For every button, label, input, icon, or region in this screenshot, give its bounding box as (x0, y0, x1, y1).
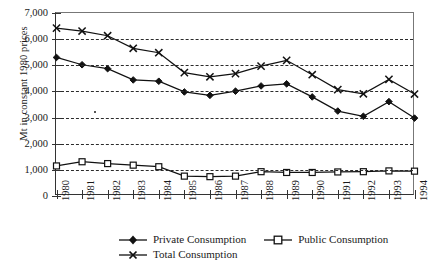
series-layer (56, 13, 415, 196)
plot-area (55, 12, 414, 195)
legend-label-private: Private Consumption (153, 232, 246, 247)
gridline (56, 91, 413, 92)
x-tick-label: 1987 (239, 180, 250, 201)
open-square-icon (263, 234, 293, 246)
cross-star-icon (118, 249, 148, 261)
y-tick-mark (52, 170, 61, 171)
gridline (56, 170, 413, 171)
gridline (56, 39, 413, 40)
gridline (56, 144, 413, 145)
y-tick-label: 7,000 (0, 7, 48, 18)
x-tick-mark (236, 190, 237, 199)
x-tick-label: 1993 (392, 180, 403, 201)
x-tick-mark (338, 190, 339, 199)
x-tick-mark (415, 190, 416, 199)
y-tick-label: 3,000 (0, 111, 48, 122)
x-tick-label: 1989 (290, 180, 301, 201)
x-tick-mark (108, 190, 109, 199)
x-tick-mark (184, 190, 185, 199)
x-tick-mark (210, 190, 211, 199)
y-tick-mark (52, 65, 61, 66)
x-tick-label: 1992 (366, 180, 377, 201)
x-tick-label: 1991 (341, 180, 352, 201)
filled-diamond-icon (118, 234, 148, 246)
legend-item-public[interactable]: Public Consumption (263, 232, 388, 247)
y-tick-mark (52, 91, 61, 92)
x-tick-label: 1988 (264, 180, 275, 201)
legend-label-total: Total Consumption (153, 247, 237, 262)
x-tick-label: 1985 (187, 180, 198, 201)
legend-row-2: Total Consumption (118, 247, 405, 262)
x-tick-mark (312, 190, 313, 199)
y-tick-label: 0 (0, 190, 48, 201)
x-tick-mark (261, 190, 262, 199)
x-tick-mark (133, 190, 134, 199)
x-tick-label: 1982 (111, 180, 122, 201)
x-tick-mark (389, 190, 390, 199)
legend-label-public: Public Consumption (298, 232, 388, 247)
legend-row-1: Private Consumption Public Consumption (118, 232, 405, 247)
y-tick-label: 5,000 (0, 59, 48, 70)
x-tick-mark (287, 190, 288, 199)
x-tick-mark (159, 190, 160, 199)
x-tick-mark (82, 190, 83, 199)
y-tick-mark (52, 118, 61, 119)
legend: Private Consumption Public Consumption T… (118, 232, 405, 262)
y-tick-mark (52, 144, 61, 145)
x-tick-label: 1984 (162, 180, 173, 201)
series-total-consumption (53, 25, 418, 98)
y-tick-label: 2,000 (0, 137, 48, 148)
x-tick-label: 1994 (418, 180, 429, 201)
x-tick-label: 1981 (85, 180, 96, 201)
x-tick-label: 1983 (136, 180, 147, 201)
gridline (56, 65, 413, 66)
x-tick-mark (57, 190, 58, 199)
x-tick-label: 1980 (60, 180, 71, 201)
y-tick-label: 1,000 (0, 163, 48, 174)
x-tick-label: 1986 (213, 180, 224, 201)
y-tick-label: 4,000 (0, 85, 48, 96)
series-private-consumption (53, 54, 418, 121)
y-tick-mark (52, 13, 61, 14)
legend-item-private[interactable]: Private Consumption (118, 232, 246, 247)
y-tick-label: 6,000 (0, 33, 48, 44)
artifact-speck (94, 111, 96, 113)
gridline (56, 118, 413, 119)
legend-item-total[interactable]: Total Consumption (118, 247, 237, 262)
chart-figure: Mt in constant 1980 prices 01,0002,0003,… (0, 0, 446, 266)
x-tick-label: 1990 (315, 180, 326, 201)
x-tick-mark (363, 190, 364, 199)
y-tick-mark (52, 39, 61, 40)
